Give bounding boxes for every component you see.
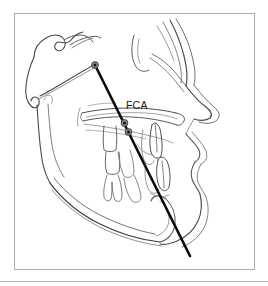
anterior-cranial-base-inner — [39, 68, 94, 99]
pterygomaxillary-fissure — [78, 108, 80, 126]
cranial-structures — [26, 19, 219, 247]
figure-page: FCA — [0, 0, 268, 286]
palatal-plane-lower — [83, 117, 177, 125]
maxillary-tuberosity-line — [86, 130, 146, 139]
maxillary-incisor-root — [155, 124, 157, 152]
anterior-cranial-base — [40, 64, 96, 96]
nasal-profile-outer — [194, 85, 219, 123]
soft-tissue-chin-outer — [182, 197, 208, 247]
mandibular-molar-2 — [124, 175, 141, 202]
orbital-floor-arc-inner — [138, 39, 140, 63]
orbital-rim-outline — [26, 57, 40, 108]
maxillary-incisor — [150, 123, 162, 158]
zygomatic-process-line — [88, 103, 116, 106]
mandibular-molar-1 — [118, 150, 134, 177]
lower-lip-soft-tissue — [191, 162, 200, 194]
sphenoid-inner-line — [72, 38, 93, 48]
cephalometric-tracing — [0, 0, 268, 286]
coronoid-process — [44, 95, 53, 104]
maxillary-molar-roots — [104, 175, 122, 201]
sella-turcica-outline — [64, 35, 93, 42]
point-inferior-core — [127, 131, 130, 134]
mandible-ramus-anterior — [48, 104, 64, 177]
point-superior-core — [94, 64, 97, 67]
maxillary-molar-2 — [105, 152, 119, 174]
maxilla-posterior-border — [81, 113, 83, 121]
maxillary-molar-1 — [103, 126, 117, 152]
columella-line — [186, 119, 194, 134]
nasal-bridge-line — [150, 58, 184, 92]
symphysis-inner — [156, 201, 169, 236]
frontal-inner-line — [157, 26, 174, 61]
fca-line — [95, 65, 190, 256]
mandibular-incisor-root — [162, 161, 164, 188]
fca-label: FCA — [126, 100, 148, 111]
point-middle-core — [123, 122, 126, 125]
upper-lip-outer — [192, 132, 207, 164]
bottom-divider — [0, 281, 268, 282]
frontal-sinus-line — [163, 22, 181, 83]
mandible-ramus-posterior — [37, 105, 50, 183]
orbital-floor-arc — [132, 35, 149, 71]
forehead-soft-tissue — [176, 19, 195, 85]
